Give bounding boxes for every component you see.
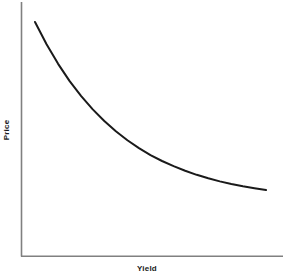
price-yield-chart: Price Yield [0, 0, 288, 278]
chart-plot-area [0, 0, 288, 278]
x-axis-label: Yield [107, 265, 187, 273]
y-axis-label-text: Price [3, 120, 11, 141]
y-axis-label: Price [0, 112, 14, 148]
price-yield-curve [35, 22, 266, 190]
